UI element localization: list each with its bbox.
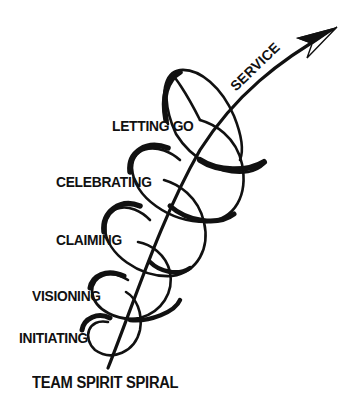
stage-label-celebrating: CELEBRATING bbox=[56, 174, 152, 190]
spiral-diagram bbox=[0, 0, 356, 417]
stage-label-claiming: CLAIMING bbox=[56, 232, 122, 248]
diagram-title: TEAM SPIRIT SPIRAL bbox=[32, 374, 178, 392]
arrowhead-icon bbox=[296, 27, 337, 58]
spiral-loop-letting-go-thick-b bbox=[200, 160, 264, 169]
stage-label-initiating: INITIATING bbox=[19, 330, 88, 346]
spiral-loop-claiming bbox=[105, 180, 206, 276]
stage-label-visioning: VISIONING bbox=[32, 288, 101, 304]
spiral-loop-claiming-thick-b bbox=[150, 262, 190, 272]
stage-label-letting-go: LETTING GO bbox=[112, 118, 194, 134]
spiral-loop-visioning-thick bbox=[90, 273, 124, 288]
